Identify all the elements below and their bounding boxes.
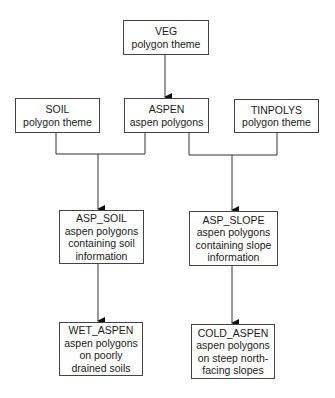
node-aspen-desc: aspen polygons <box>130 116 204 129</box>
node-veg-desc: polygon theme <box>132 38 201 51</box>
node-tinpolys: TINPOLYS polygon theme <box>234 99 319 133</box>
node-asp-slope-desc-2: containing slope <box>196 239 272 252</box>
node-wet-aspen-desc-1: aspen polygons <box>64 337 138 350</box>
node-asp-soil-title: ASP_SOIL <box>76 212 127 225</box>
node-wet-aspen-desc-3: drained soils <box>72 362 131 375</box>
node-asp-soil-desc-3: information <box>76 250 128 263</box>
node-asp-soil-desc-2: containing soil <box>68 237 135 250</box>
node-asp-slope-title: ASP_SLOPE <box>203 214 265 227</box>
node-wet-aspen-title: WET_ASPEN <box>69 324 134 337</box>
node-wet-aspen-desc-2: on poorly <box>79 349 122 362</box>
node-aspen: ASPEN aspen polygons <box>124 98 209 133</box>
node-aspen-title: ASPEN <box>149 103 185 116</box>
node-soil-desc: polygon theme <box>23 116 92 129</box>
node-cold-aspen: COLD_ASPEN aspen polygons on steep north… <box>191 324 275 379</box>
node-asp-soil-desc-1: aspen polygons <box>65 225 139 238</box>
node-veg-title: VEG <box>155 25 177 38</box>
node-asp-soil: ASP_SOIL aspen polygons containing soil … <box>59 210 144 264</box>
node-asp-slope-desc-3: information <box>208 251 260 264</box>
node-cold-aspen-desc-3: facing slopes <box>202 364 263 377</box>
node-wet-aspen: WET_ASPEN aspen polygons on poorly drain… <box>59 322 143 376</box>
node-cold-aspen-desc-2: on steep north- <box>198 352 269 365</box>
connector-lines <box>0 0 335 398</box>
node-soil: SOIL polygon theme <box>15 98 100 133</box>
node-asp-slope-desc-1: aspen polygons <box>197 226 271 239</box>
node-asp-slope: ASP_SLOPE aspen polygons containing slop… <box>189 211 278 266</box>
node-cold-aspen-desc-1: aspen polygons <box>196 339 270 352</box>
node-soil-title: SOIL <box>46 103 70 116</box>
node-veg: VEG polygon theme <box>123 20 209 55</box>
node-tinpolys-title: TINPOLYS <box>251 104 302 117</box>
node-tinpolys-desc: polygon theme <box>242 116 311 129</box>
node-cold-aspen-title: COLD_ASPEN <box>198 327 269 340</box>
